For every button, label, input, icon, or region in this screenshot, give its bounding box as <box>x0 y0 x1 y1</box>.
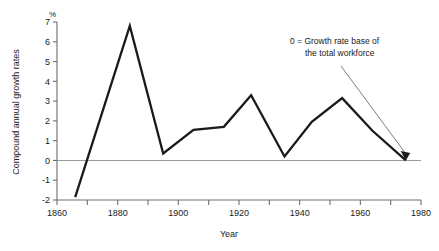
annotation-leader-line <box>341 66 405 152</box>
y-axis-ticks <box>53 22 57 200</box>
y-tick-label: 3 <box>45 96 50 106</box>
y-tick-label: 6 <box>45 37 50 47</box>
x-tick-label: 1940 <box>290 208 310 218</box>
x-axis-tick-labels: 1860188019001920194019601980 <box>47 208 431 218</box>
x-axis-ticks <box>57 200 421 205</box>
x-tick-label: 1980 <box>411 208 431 218</box>
x-tick-label: 1880 <box>108 208 128 218</box>
y-tick-label: 2 <box>45 116 50 126</box>
chart-canvas: -2-101234567 186018801900192019401960198… <box>0 0 439 251</box>
annotation-line-2: the total workforce <box>305 48 375 58</box>
y-tick-label: 1 <box>45 136 50 146</box>
annotation-line-1: 0 = Growth rate base of <box>290 36 380 46</box>
growth-rate-chart: -2-101234567 186018801900192019401960198… <box>0 0 439 251</box>
y-tick-label: -2 <box>42 195 50 205</box>
y-tick-label: -1 <box>42 175 50 185</box>
x-tick-label: 1920 <box>229 208 249 218</box>
y-tick-label: 5 <box>45 57 50 67</box>
x-tick-label: 1860 <box>47 208 67 218</box>
y-axis-title: Compound annual growth rates <box>11 49 21 175</box>
x-tick-label: 1900 <box>168 208 188 218</box>
x-axis-title: Year <box>220 229 238 239</box>
y-tick-label: 0 <box>45 156 50 166</box>
y-axis-unit-label: % <box>49 10 56 19</box>
x-tick-label: 1960 <box>350 208 370 218</box>
y-tick-label: 4 <box>45 77 50 87</box>
y-axis-tick-labels: -2-101234567 <box>42 17 50 205</box>
